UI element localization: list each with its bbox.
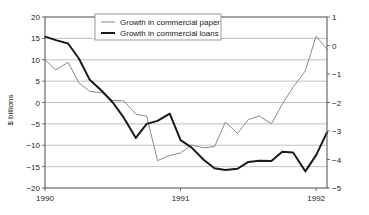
y-tick-label: −15: [26, 163, 40, 172]
y2-tick-label: 0: [332, 42, 337, 51]
line-chart: 20151050−5−10−15−20 10−1−2−3−4−5 1990199…: [0, 0, 369, 215]
y2-tick-label: −2: [332, 99, 342, 108]
y-tick-label: 20: [31, 13, 40, 22]
y2-tick-label: −3: [332, 127, 342, 136]
y-tick-label: −5: [31, 120, 41, 129]
x-tick-label: 1991: [172, 194, 190, 203]
y2-tick-label: −4: [332, 156, 342, 165]
left-axis-ticks: 20151050−5−10−15−20: [26, 13, 45, 193]
y2-tick-label: 1: [332, 13, 337, 22]
y-tick-label: 5: [36, 77, 41, 86]
legend-label-commercial-loans: Growth in commercial loans: [120, 29, 219, 38]
y-tick-label: 10: [31, 56, 40, 65]
y-tick-label: −10: [26, 141, 40, 150]
legend-label-commercial-paper: Growth in commercial paper: [120, 18, 220, 27]
legend: Growth in commercial paper Growth in com…: [95, 14, 221, 40]
y2-tick-label: −5: [332, 184, 342, 193]
x-axis-ticks: 199019911992: [36, 188, 326, 203]
y-tick-label: 0: [36, 99, 41, 108]
y-tick-label: −20: [26, 184, 40, 193]
x-tick-label: 1990: [36, 194, 54, 203]
right-axis-ticks: 10−1−2−3−4−5: [327, 13, 342, 193]
x-tick-label: 1992: [307, 194, 325, 203]
chart-figure: 20151050−5−10−15−20 10−1−2−3−4−5 1990199…: [0, 0, 369, 215]
y2-tick-label: −1: [332, 70, 342, 79]
y-tick-label: 15: [31, 34, 40, 43]
y-axis-title: $ billions: [6, 94, 15, 125]
